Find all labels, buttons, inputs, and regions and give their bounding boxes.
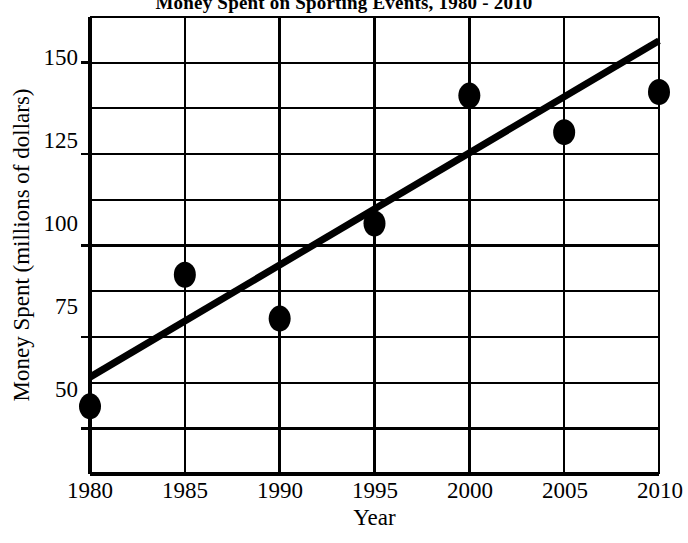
- data-point-marker: [79, 393, 101, 419]
- plot-area: [0, 0, 688, 543]
- data-point-marker: [174, 262, 196, 288]
- data-point-marker: [458, 83, 480, 109]
- data-point-marker: [364, 211, 386, 237]
- data-point-marker: [648, 79, 670, 105]
- data-point-marker: [553, 119, 575, 145]
- chart-figure: Money Spent on Sporting Events, 1980 - 2…: [0, 0, 688, 543]
- data-point-marker: [269, 306, 291, 332]
